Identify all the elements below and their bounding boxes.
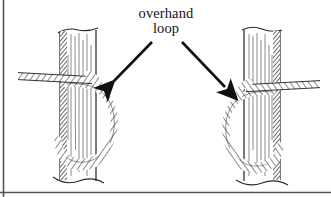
overhand-loop-figure: overhand loop bbox=[0, 0, 331, 197]
caption-line-loop: loop bbox=[119, 21, 213, 36]
left-rope-standing-part bbox=[18, 76, 92, 80]
right-rope-standing-part bbox=[246, 84, 320, 88]
caption-line-overhand: overhand bbox=[119, 6, 213, 21]
